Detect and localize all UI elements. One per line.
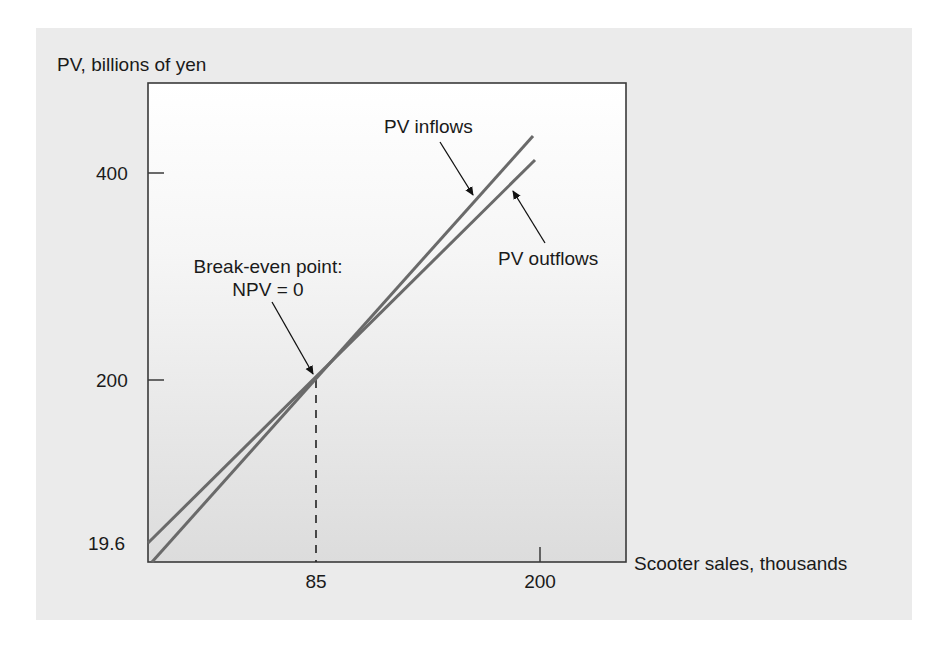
annotation-pv-outflows: PV outflows: [498, 249, 598, 268]
annotation-pv-inflows: PV inflows: [384, 117, 473, 136]
ytick-label-19-6: 19.6: [88, 534, 125, 553]
annotation-breakeven-line1: Break-even point:: [178, 257, 358, 276]
plot-area: [148, 83, 626, 562]
xtick-label-85: 85: [296, 572, 336, 591]
chart-canvas: [0, 0, 943, 649]
y-axis-title: PV, billions of yen: [57, 55, 206, 74]
xtick-label-200: 200: [515, 572, 565, 591]
x-axis-title: Scooter sales, thousands: [634, 554, 847, 573]
ytick-label-200: 200: [96, 371, 128, 390]
annotation-breakeven-line2: NPV = 0: [178, 280, 358, 299]
ytick-label-400: 400: [96, 164, 128, 183]
